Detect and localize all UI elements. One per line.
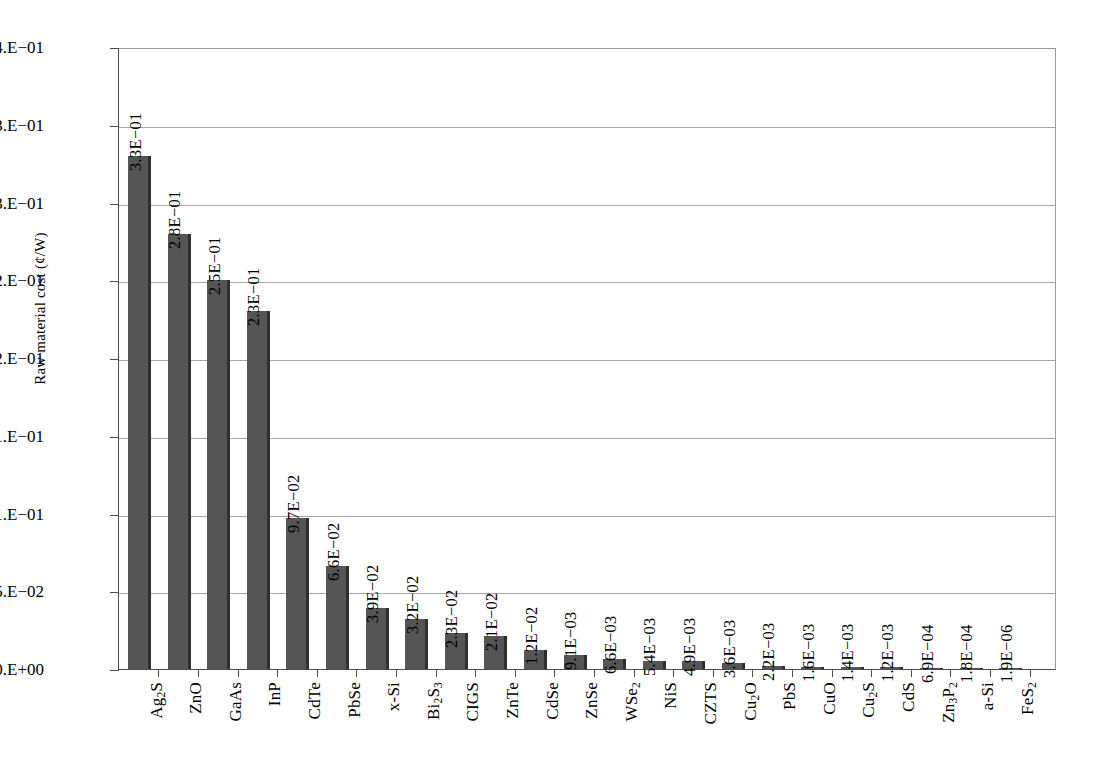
x-category-label: CdTe	[305, 682, 325, 719]
x-tick-mark	[475, 670, 476, 677]
x-tick-mark	[832, 670, 833, 677]
x-tick-mark	[198, 670, 199, 677]
y-tick-label: 2.E−01	[0, 271, 44, 291]
x-tick-mark	[554, 670, 555, 677]
bar-value-label: 1.2E−02	[522, 607, 542, 666]
bar	[168, 234, 191, 669]
bar	[128, 156, 151, 669]
x-tick-mark	[950, 670, 951, 677]
y-tick-label: 2.E−01	[0, 349, 44, 369]
y-tick-label: 3.E−01	[0, 116, 44, 136]
y-tick-mark	[110, 48, 119, 49]
x-tick-mark	[911, 670, 912, 677]
x-category-label: ZnO	[186, 682, 206, 714]
bar-value-label: 6.6E−02	[324, 523, 344, 582]
y-tick-label: 0.E+00	[0, 660, 44, 680]
bar-value-label: 6.9E−04	[918, 624, 938, 683]
bar	[207, 280, 230, 669]
x-category-label: CZTS	[701, 682, 721, 724]
x-category-label: a-Si	[978, 682, 998, 710]
y-tick-label: 1.E−01	[0, 427, 44, 447]
x-category-label: Zn3P2	[939, 682, 959, 723]
y-tick-mark	[110, 515, 119, 516]
bar	[326, 566, 349, 669]
bar-value-label: 3.3E−01	[126, 112, 146, 171]
y-tick-mark	[110, 281, 119, 282]
x-category-label: Cu2O	[741, 682, 761, 721]
y-tick-mark	[110, 670, 119, 671]
bar	[247, 311, 270, 669]
x-tick-mark	[792, 670, 793, 677]
y-tick-label: 5.E−02	[0, 582, 44, 602]
x-category-label: CuO	[820, 682, 840, 715]
bar-value-label: 1.9E−06	[997, 625, 1017, 684]
bar-value-label: 9.1E−03	[561, 611, 581, 670]
x-tick-mark	[594, 670, 595, 677]
bar-value-label: 9.7E−02	[284, 475, 304, 534]
bar-value-label: 2.5E−01	[205, 237, 225, 296]
bar-chart: Raw material cost (¢/W) 4.E−013.E−013.E−…	[0, 0, 1099, 761]
bar-value-label: 6.6E−03	[601, 615, 621, 674]
x-tick-mark	[871, 670, 872, 677]
x-category-label: CdSe	[543, 682, 563, 720]
y-axis-title: Raw material cost (¢/W)	[32, 189, 49, 429]
y-tick-label: 4.E−01	[0, 38, 44, 58]
x-tick-mark	[356, 670, 357, 677]
bar-value-label: 2.8E−01	[165, 190, 185, 249]
x-tick-mark	[713, 670, 714, 677]
bar-value-label: 3.6E−03	[720, 620, 740, 679]
bar-value-label: 1.2E−03	[878, 624, 898, 683]
x-tick-mark	[436, 670, 437, 677]
x-category-label: FeS2	[1018, 682, 1038, 715]
x-category-label: Ag2S	[147, 682, 167, 719]
x-tick-mark	[238, 670, 239, 677]
x-category-label: ZnTe	[503, 682, 523, 718]
y-tick-mark	[110, 359, 119, 360]
bar-value-label: 1.4E−03	[838, 623, 858, 682]
bar-value-label: 5.4E−03	[640, 617, 660, 676]
gridline	[119, 127, 1055, 128]
x-category-label: CdS	[899, 682, 919, 712]
bar-value-label: 2.3E−01	[244, 268, 264, 327]
x-tick-mark	[396, 670, 397, 677]
x-tick-mark	[673, 670, 674, 677]
x-tick-mark	[990, 670, 991, 677]
y-tick-mark	[110, 126, 119, 127]
x-category-label: WSe2	[622, 682, 642, 722]
x-category-label: NiS	[661, 682, 681, 709]
x-tick-mark	[752, 670, 753, 677]
x-tick-mark	[634, 670, 635, 677]
bar-value-label: 2.3E−02	[442, 590, 462, 649]
y-tick-label: 3.E−01	[0, 194, 44, 214]
y-tick-mark	[110, 592, 119, 593]
x-category-label: CIGS	[463, 682, 483, 722]
x-category-label: ZnSe	[582, 682, 602, 719]
x-category-label: Bi2S3	[424, 682, 444, 720]
x-tick-mark	[158, 670, 159, 677]
bar-value-label: 1.8E−04	[957, 625, 977, 684]
x-tick-mark	[317, 670, 318, 677]
bar-value-label: 1.6E−03	[799, 623, 819, 682]
x-category-label: Cu2S	[859, 682, 879, 718]
gridline	[119, 205, 1055, 206]
bar	[286, 518, 309, 669]
y-tick-mark	[110, 204, 119, 205]
x-tick-mark	[1030, 670, 1031, 677]
bar-value-label: 3.2E−02	[403, 576, 423, 635]
y-tick-label: 1.E−01	[0, 505, 44, 525]
y-tick-mark	[110, 437, 119, 438]
x-category-label: GaAs	[226, 682, 246, 722]
x-category-label: x-Si	[384, 682, 404, 711]
bar-value-label: 2.1E−02	[482, 593, 502, 652]
x-tick-mark	[277, 670, 278, 677]
bar-value-label: 3.9E−02	[363, 565, 383, 624]
x-tick-mark	[515, 670, 516, 677]
plot-area	[118, 48, 1056, 670]
bar-value-label: 4.9E−03	[680, 618, 700, 677]
x-category-label: InP	[265, 682, 285, 706]
x-category-label: PbS	[780, 682, 800, 710]
x-category-label: PbSe	[345, 682, 365, 718]
bar-value-label: 2.2E−03	[759, 622, 779, 681]
